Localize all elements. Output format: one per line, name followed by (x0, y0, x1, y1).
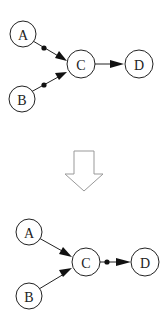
arrowhead-icon (59, 247, 72, 257)
bottom-graph: A B C D (16, 219, 159, 309)
node-c-bottom: C (72, 248, 100, 276)
node-b-top: B (9, 86, 35, 112)
edge-b-to-c-bottom (39, 268, 72, 289)
edge-c-to-d-bottom (100, 258, 131, 266)
arrowhead-icon (110, 60, 124, 68)
dot-marker-icon (41, 45, 46, 50)
edge-c-to-d-top (94, 60, 124, 68)
node-label: A (18, 28, 29, 43)
arrowhead-icon (116, 258, 131, 266)
arrowhead-icon (55, 51, 67, 61)
node-d-bottom: D (131, 248, 159, 276)
node-d-top: D (125, 50, 153, 78)
edge-b-to-c-top (31, 72, 67, 92)
down-arrow-icon (65, 151, 103, 191)
node-label: D (134, 58, 144, 73)
edge-a-to-c-bottom (39, 238, 72, 257)
node-a-bottom: A (16, 219, 42, 245)
dot-marker-icon (41, 82, 46, 87)
node-b-bottom: B (16, 283, 42, 309)
node-label: C (76, 58, 85, 73)
edge-a-to-c-top (33, 41, 67, 61)
arrowhead-icon (55, 72, 67, 80)
diagram-canvas: A B C D (0, 0, 165, 330)
node-label: B (24, 290, 33, 305)
top-graph: A B C D (9, 21, 153, 112)
node-c-top: C (67, 50, 95, 78)
node-a-top: A (10, 21, 36, 47)
node-label: D (140, 256, 150, 271)
dot-marker-icon (104, 259, 109, 264)
node-label: A (24, 226, 35, 241)
node-label: C (81, 256, 90, 271)
node-label: B (17, 93, 26, 108)
